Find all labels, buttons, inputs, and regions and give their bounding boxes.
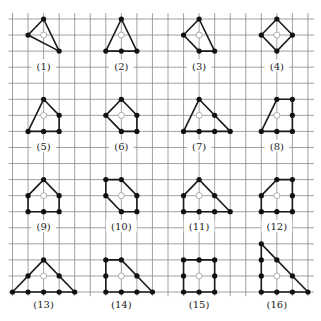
lattice-point-dot <box>290 209 295 214</box>
center-circle-icon <box>41 273 47 279</box>
shape-label: (12) <box>267 221 288 232</box>
center-circle-icon <box>196 32 202 38</box>
lattice-point-dot <box>290 177 295 182</box>
lattice-point-dot <box>103 193 108 198</box>
lattice-point-dot <box>57 113 62 118</box>
lattice-point-dot <box>212 129 217 134</box>
lattice-point-dot <box>212 257 217 262</box>
lattice-point-dot <box>57 209 62 214</box>
center-circle-icon <box>196 193 202 199</box>
lattice-point-dot <box>181 257 186 262</box>
lattice-point-dot <box>25 193 30 198</box>
lattice-point-dot <box>134 113 139 118</box>
shape-label: (2) <box>114 61 128 72</box>
center-circle-icon <box>118 32 124 38</box>
lattice-point-dot <box>197 289 202 294</box>
shape-label: (11) <box>189 221 210 232</box>
lattice-point-dot <box>181 273 186 278</box>
lattice-point-dot <box>197 16 202 21</box>
lattice-point-dot <box>228 209 233 214</box>
lattice-point-dot <box>259 193 264 198</box>
lattice-point-dot <box>103 289 108 294</box>
grid <box>9 13 314 296</box>
lattice-point-dot <box>103 257 108 262</box>
lattice-point-dot <box>259 289 264 294</box>
lattice-point-dot <box>212 49 217 54</box>
lattice-point-dot <box>212 289 217 294</box>
lattice-point-dot <box>72 289 77 294</box>
lattice-point-dot <box>41 289 46 294</box>
center-circle-icon <box>118 112 124 118</box>
lattice-point-dot <box>259 129 264 134</box>
lattice-point-dot <box>181 193 186 198</box>
lattice-point-dot <box>41 257 46 262</box>
lattice-point-dot <box>119 177 124 182</box>
lattice-point-dot <box>103 49 108 54</box>
lattice-point-dot <box>25 209 30 214</box>
lattice-point-dot <box>290 289 295 294</box>
lattice-point-dot <box>119 97 124 102</box>
lattice-point-dot <box>259 32 264 37</box>
shape-label: (8) <box>270 141 284 152</box>
lattice-point-dot <box>290 32 295 37</box>
lattice-point-dot <box>25 289 30 294</box>
shape-labels: (1)(2)(3)(4)(5)(6)(7)(8)(9)(10)(11)(12)(… <box>28 59 292 310</box>
shape-label: (16) <box>267 299 288 310</box>
lattice-point-dot <box>10 289 15 294</box>
lattice-polygon-diagram: (1)(2)(3)(4)(5)(6)(7)(8)(9)(10)(11)(12)(… <box>0 0 321 321</box>
lattice-point-dot <box>41 97 46 102</box>
lattice-point-dot <box>197 257 202 262</box>
lattice-point-dot <box>212 113 217 118</box>
lattice-point-dot <box>119 289 124 294</box>
shape-label: (9) <box>37 221 51 232</box>
center-circle-icon <box>274 273 280 279</box>
shape-label: (6) <box>114 141 128 152</box>
lattice-point-dot <box>57 129 62 134</box>
lattice-point-dot <box>57 193 62 198</box>
center-circle-icon <box>274 193 280 199</box>
shapes <box>10 16 311 294</box>
lattice-point-dot <box>197 177 202 182</box>
lattice-point-dot <box>150 289 155 294</box>
shape-label: (14) <box>111 299 132 310</box>
center-circle-icon <box>274 32 280 38</box>
lattice-point-dot <box>290 129 295 134</box>
lattice-point-dot <box>41 129 46 134</box>
lattice-point-dot <box>274 16 279 21</box>
lattice-point-dot <box>119 16 124 21</box>
lattice-point-dot <box>274 177 279 182</box>
shape-label: (7) <box>192 141 206 152</box>
center-circle-icon <box>118 273 124 279</box>
lattice-point-dot <box>25 273 30 278</box>
lattice-point-dot <box>57 289 62 294</box>
lattice-point-dot <box>134 129 139 134</box>
lattice-point-dot <box>259 273 264 278</box>
lattice-point-dot <box>197 49 202 54</box>
shape-label: (3) <box>192 61 206 72</box>
center-circle-icon <box>41 32 47 38</box>
lattice-point-dot <box>134 273 139 278</box>
shape-16 <box>259 241 311 294</box>
lattice-point-dot <box>274 129 279 134</box>
lattice-point-dot <box>274 209 279 214</box>
lattice-point-dot <box>197 97 202 102</box>
center-circle-icon <box>118 193 124 199</box>
lattice-point-dot <box>290 273 295 278</box>
lattice-point-dot <box>290 193 295 198</box>
lattice-point-dot <box>41 209 46 214</box>
lattice-point-dot <box>103 273 108 278</box>
lattice-point-dot <box>119 129 124 134</box>
lattice-point-dot <box>181 32 186 37</box>
center-circle-icon <box>274 112 280 118</box>
lattice-point-dot <box>119 209 124 214</box>
lattice-point-dot <box>197 129 202 134</box>
lattice-point-dot <box>259 241 264 246</box>
center-circle-icon <box>41 112 47 118</box>
lattice-point-dot <box>259 209 264 214</box>
center-circle-icon <box>196 112 202 118</box>
lattice-point-dot <box>134 209 139 214</box>
center-circle-icon <box>41 193 47 199</box>
lattice-point-dot <box>181 129 186 134</box>
lattice-point-dot <box>41 16 46 21</box>
lattice-point-dot <box>274 97 279 102</box>
